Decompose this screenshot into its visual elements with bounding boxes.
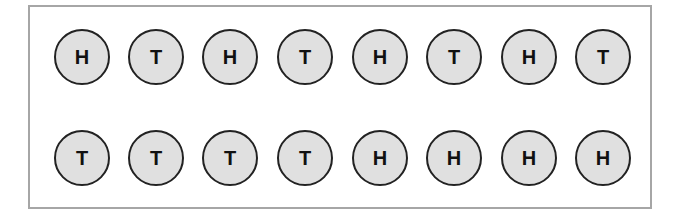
- coin: T: [128, 130, 184, 186]
- coin: H: [54, 29, 110, 85]
- coin-row-1: H T H T H T H T: [0, 29, 683, 85]
- coin: T: [54, 130, 110, 186]
- coin: H: [501, 29, 557, 85]
- coin: T: [426, 29, 482, 85]
- coin: H: [352, 130, 408, 186]
- coin: H: [575, 130, 631, 186]
- coin: T: [277, 29, 333, 85]
- coin: T: [575, 29, 631, 85]
- coin: T: [277, 130, 333, 186]
- coin-row-2: T T T T H H H H: [0, 130, 683, 186]
- coin: H: [501, 130, 557, 186]
- coin: H: [352, 29, 408, 85]
- coin: H: [426, 130, 482, 186]
- coin: T: [202, 130, 258, 186]
- coin: H: [202, 29, 258, 85]
- coin: T: [128, 29, 184, 85]
